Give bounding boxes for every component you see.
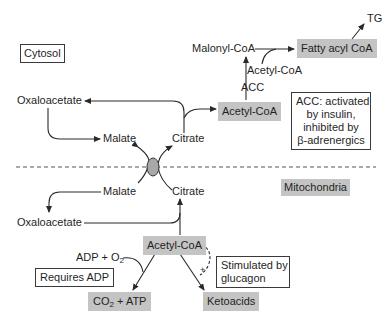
cytosol-label: Cytosol xyxy=(20,44,65,63)
cytosol-malate: Malate xyxy=(103,132,136,145)
mito-citrate: Citrate xyxy=(172,185,204,198)
cytosol-oxaloacetate: Oxaloacetate xyxy=(17,94,82,107)
acetyl-coa-input: Acetyl-CoA xyxy=(247,64,302,77)
requires-adp-note: Requires ADP xyxy=(35,268,114,287)
co2-text: CO xyxy=(93,295,110,307)
acc-note-line-4: β-adrenergics xyxy=(296,134,366,147)
glucagon-note: Stimulated by glucagon xyxy=(216,256,290,288)
plus-sign: + xyxy=(200,264,205,277)
malonyl-coa: Malonyl-CoA xyxy=(192,42,255,55)
mito-malate: Malate xyxy=(103,185,136,198)
atp-text: + ATP xyxy=(114,295,147,307)
adp-o2-text: ADP + O xyxy=(76,251,120,263)
glucagon-note-line-2: glucagon xyxy=(221,272,285,285)
cytosol-citrate: Citrate xyxy=(172,132,204,145)
fatty-acyl-coa: Fatty acyl CoA xyxy=(297,39,377,58)
mito-oxaloacetate: Oxaloacetate xyxy=(17,216,82,229)
acc-enzyme-label: ACC xyxy=(241,81,264,94)
o2-subscript: 2 xyxy=(120,256,124,265)
adp-o2-input: ADP + O2 xyxy=(76,251,124,264)
acc-note-line-3: inhibited by xyxy=(296,121,366,134)
glucagon-note-line-1: Stimulated by xyxy=(221,259,285,272)
membrane-transporter-icon xyxy=(147,158,159,176)
triglyceride-tg: TG xyxy=(367,12,382,25)
acc-note-line-2: by insulin, xyxy=(296,108,366,121)
mitochondria-label: Mitochondria xyxy=(281,179,350,196)
citrate-shuttle-diagram: Cytosol Mitochondria Oxaloacetate Malate… xyxy=(0,0,392,321)
acc-regulation-note: ACC: activated by insulin, inhibited by … xyxy=(291,92,371,150)
mito-acetyl-coa: Acetyl-CoA xyxy=(143,236,206,255)
cytosol-acetyl-coa: Acetyl-CoA xyxy=(218,102,281,121)
co2-atp-product: CO2 + ATP xyxy=(88,292,151,311)
acc-note-line-1: ACC: activated xyxy=(296,95,366,108)
ketoacids-product: Ketoacids xyxy=(203,292,259,311)
